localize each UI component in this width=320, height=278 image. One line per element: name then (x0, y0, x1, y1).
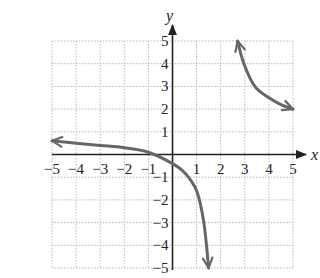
x-tick-label: −5 (44, 161, 60, 177)
y-axis-label: y (164, 7, 174, 25)
y-tick-label: 1 (161, 124, 169, 140)
y-tick-label: 3 (161, 78, 169, 94)
y-tick-label: 4 (161, 56, 169, 72)
y-tick-label: 5 (161, 33, 169, 49)
y-tick-label: −2 (153, 192, 169, 208)
right-branch-curve (238, 41, 293, 109)
x-axis-label: x (310, 146, 318, 163)
x-tick-label: 1 (193, 161, 201, 177)
x-tick-label: 3 (241, 161, 249, 177)
x-tick-label: 4 (265, 161, 273, 177)
function-graph: −5−4−3−2−11234554321−1−2−3−4−5 x y (0, 0, 320, 278)
y-tick-label: −5 (153, 260, 169, 276)
x-tick-label: 2 (217, 161, 225, 177)
x-tick-label: 5 (289, 161, 297, 177)
axes (52, 25, 306, 270)
x-tick-label: −4 (68, 161, 84, 177)
y-tick-label: −1 (153, 169, 169, 185)
x-tick-label: −3 (92, 161, 108, 177)
x-tick-label: −2 (116, 161, 132, 177)
y-tick-label: −3 (153, 215, 169, 231)
y-tick-label: −4 (153, 237, 169, 253)
y-tick-label: 2 (161, 101, 169, 117)
